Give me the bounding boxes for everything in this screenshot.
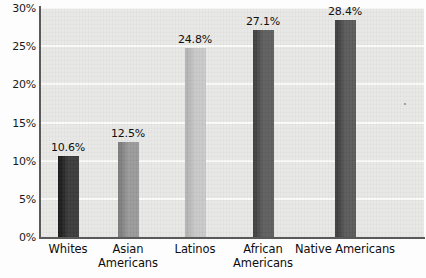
x-category-label: Native Americans [295,242,395,256]
x-category-label: Whites [49,242,88,256]
bar[interactable] [118,142,139,237]
x-category-label-line: Native Americans [295,242,395,256]
bar-fill [253,30,274,237]
gridline [40,83,424,85]
y-tick-label: 30% [2,2,36,15]
gridline [40,122,424,124]
x-category-label-line: Whites [49,242,88,256]
x-category-label: AsianAmericans [98,242,158,270]
bar-chart: 0%5%10%15%20%25%30% 10.6%12.5%24.8%27.1%… [0,0,426,278]
y-axis-line [39,6,41,239]
plot-area [40,8,424,237]
x-category-label-line: Americans [233,256,293,270]
bar-fill [58,156,79,237]
y-axis-tick-labels: 0%5%10%15%20%25%30% [0,0,36,278]
x-category-label-line: Latinos [175,242,216,256]
x-category-label: Latinos [175,242,216,256]
bar-fill [118,142,139,237]
bar-value-label: 27.1% [246,15,280,28]
x-category-label-line: Americans [98,256,158,270]
x-category-label-line: African [233,242,293,256]
scan-speck [404,103,406,105]
bar[interactable] [253,30,274,237]
bar[interactable] [58,156,79,237]
bar-value-label: 24.8% [178,33,212,46]
y-tick-label: 0% [2,231,36,244]
bar-value-label: 12.5% [111,127,145,140]
gridline [40,45,424,47]
x-category-label-line: Asian [98,242,158,256]
bar[interactable] [185,48,206,237]
x-category-label: AfricanAmericans [233,242,293,270]
y-tick-label: 25% [2,40,36,53]
bar-fill [335,20,356,237]
y-tick-label: 20% [2,78,36,91]
y-tick-label: 10% [2,154,36,167]
bar-value-label: 28.4% [328,5,362,18]
x-axis-line [39,237,425,239]
bar-value-label: 10.6% [51,141,85,154]
y-tick-label: 15% [2,116,36,129]
gridline [40,160,424,162]
y-tick-label: 5% [2,192,36,205]
bar-fill [185,48,206,237]
gridline [40,198,424,200]
gridline [40,8,424,9]
bar[interactable] [335,20,356,237]
